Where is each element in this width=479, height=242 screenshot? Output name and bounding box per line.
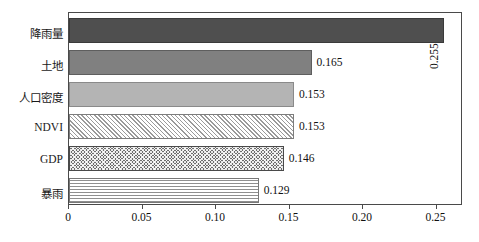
y-axis-label-3: NDVI — [0, 121, 63, 133]
value-label-3: 0.153 — [299, 120, 325, 132]
value-label-2: 0.153 — [299, 88, 325, 100]
y-axis-label-0: 降雨量 — [0, 25, 63, 41]
y-axis-label-5: 暴雨 — [0, 185, 63, 201]
bar-0 — [69, 18, 444, 43]
value-label-1: 0.165 — [317, 56, 343, 68]
plot-area — [68, 12, 462, 205]
x-axis-tick-label-3: 0.15 — [278, 211, 298, 223]
x-axis-tick-4 — [362, 205, 363, 209]
x-axis-tick-1 — [142, 205, 143, 209]
x-axis-tick-label-1: 0.05 — [131, 211, 151, 223]
x-axis-tick-3 — [289, 205, 290, 209]
value-label-0: 0.255 — [428, 43, 453, 69]
value-label-4: 0.146 — [289, 152, 315, 164]
bar-1 — [69, 50, 312, 75]
x-axis-tick-label-2: 0.10 — [205, 211, 225, 223]
value-label-5: 0.129 — [264, 184, 290, 196]
horizontal-bar-chart: 降雨量 土地 人口密度 NDVI GDP 暴雨 0.255 0.165 0.15… — [0, 0, 479, 242]
x-axis-tick-label-4: 0.20 — [352, 211, 372, 223]
bar-5 — [69, 178, 259, 203]
x-axis-tick-0 — [68, 205, 69, 209]
x-axis-tick-5 — [436, 205, 437, 209]
x-axis-tick-2 — [215, 205, 216, 209]
bar-3 — [69, 114, 294, 139]
x-axis-tick-label-0: 0 — [65, 211, 71, 223]
y-axis-label-4: GDP — [0, 153, 63, 165]
y-axis-label-2: 人口密度 — [0, 89, 63, 105]
bar-2 — [69, 82, 294, 107]
y-axis-label-1: 土地 — [0, 57, 63, 73]
x-axis-tick-label-5: 0.25 — [425, 211, 445, 223]
bar-4 — [69, 146, 284, 171]
